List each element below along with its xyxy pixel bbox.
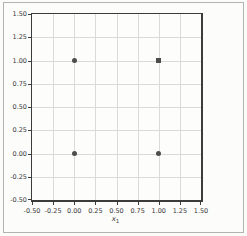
x-tick-mark xyxy=(53,202,54,205)
gridline-vertical xyxy=(117,14,118,200)
y-tick-label: -0.25 xyxy=(1,173,27,181)
gridline-vertical xyxy=(74,14,75,200)
y-tick-label: 1.00 xyxy=(1,57,27,65)
scatter-point xyxy=(156,58,161,63)
gridline-horizontal xyxy=(32,61,201,62)
y-tick-mark xyxy=(28,199,31,200)
x-tick-mark xyxy=(117,202,118,205)
y-tick-mark xyxy=(28,61,31,62)
gridline-horizontal xyxy=(32,177,201,178)
x-tick-mark xyxy=(159,202,160,205)
x-tick-label: -0.50 xyxy=(24,207,41,215)
y-tick-label: 0.50 xyxy=(1,103,27,111)
gridline-horizontal xyxy=(32,84,201,85)
y-tick-label: -0.50 xyxy=(1,196,27,204)
gridline-horizontal xyxy=(32,130,201,131)
x-axis-label: x1 xyxy=(31,215,200,224)
x-tick-label: -0.25 xyxy=(45,207,62,215)
x-tick-mark xyxy=(74,202,75,205)
y-tick-mark xyxy=(28,14,31,15)
x-tick-mark xyxy=(95,202,96,205)
x-tick-mark xyxy=(138,202,139,205)
y-tick-mark xyxy=(28,177,31,178)
x-tick-label: 1.50 xyxy=(194,207,208,215)
scatter-point xyxy=(156,151,161,156)
gridline-vertical xyxy=(138,14,139,200)
y-tick-label: 1.25 xyxy=(1,33,27,41)
gridline-vertical xyxy=(53,14,54,200)
scatter-point xyxy=(72,151,77,156)
x-tick-mark xyxy=(180,202,181,205)
x-tick-label: 0.25 xyxy=(88,207,102,215)
y-tick-mark xyxy=(28,154,31,155)
x-axis-label-subscript: 1 xyxy=(116,218,120,224)
gridline-horizontal xyxy=(32,37,201,38)
gridline-vertical xyxy=(95,14,96,200)
gridline-horizontal xyxy=(32,154,201,155)
figure-panel: -0.50-0.250.000.250.500.751.001.251.50-0… xyxy=(0,0,247,236)
x-tick-label: 1.25 xyxy=(173,207,187,215)
y-tick-label: 0.75 xyxy=(1,80,27,88)
scatter-point xyxy=(72,58,77,63)
x-tick-mark xyxy=(200,202,201,205)
gridline-vertical xyxy=(159,14,160,200)
gridline-vertical xyxy=(180,14,181,200)
y-tick-mark xyxy=(28,37,31,38)
y-tick-mark xyxy=(28,84,31,85)
x-tick-mark xyxy=(32,202,33,205)
x-tick-label: 0.50 xyxy=(109,207,123,215)
y-tick-mark xyxy=(28,107,31,108)
y-tick-label: 0.00 xyxy=(1,150,27,158)
y-tick-mark xyxy=(28,130,31,131)
y-tick-label: 0.25 xyxy=(1,126,27,134)
x-tick-label: 0.00 xyxy=(67,207,81,215)
x-tick-label: 1.00 xyxy=(152,207,166,215)
gridline-horizontal xyxy=(32,107,201,108)
x-tick-label: 0.75 xyxy=(130,207,144,215)
y-tick-label: 1.50 xyxy=(1,10,27,18)
plot-area: -0.50-0.250.000.250.500.751.001.251.50-0… xyxy=(31,13,203,202)
